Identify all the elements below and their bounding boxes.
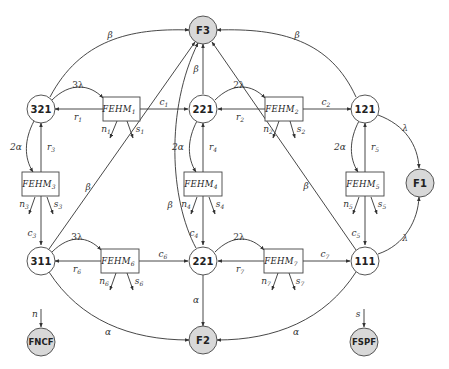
edge-121-to-F1: [378, 115, 419, 168]
box-FEHM6: FEHM6: [100, 249, 139, 273]
label-r5: r5: [371, 142, 379, 153]
label-beta-121-F3: β: [293, 30, 299, 40]
label-n5: n5: [343, 199, 353, 210]
node-221-top: 221: [189, 95, 217, 123]
node-label: 121: [355, 104, 376, 115]
box-FEHM1: FEHM1: [101, 97, 140, 121]
label-s4: s4: [216, 199, 225, 210]
label-n6: n6: [99, 276, 109, 287]
edge-FEHM2-n2: [273, 121, 279, 138]
label-beta-221a-F3: β: [192, 64, 198, 74]
label-c7: c7: [321, 249, 330, 260]
label-2lambda-221b: 2λ: [233, 232, 245, 242]
label-n1: n1: [101, 124, 111, 135]
node-FSPF: FSPF: [350, 328, 378, 356]
label-c3: c3: [28, 228, 37, 239]
label-n2: n2: [263, 124, 273, 135]
node-FNCF: FNCF: [27, 328, 55, 356]
label-beta-321-F3: β: [106, 30, 112, 40]
node-label: 321: [31, 104, 52, 115]
edge-FEHM2-s2: [290, 121, 295, 138]
box-label: FEHM7: [263, 256, 298, 267]
label-2lambda-221a: 2λ: [233, 80, 245, 90]
box-FEHM7: FEHM7: [263, 249, 303, 273]
edge-121-to-FEHM5-2alpha: [351, 121, 359, 172]
edge-311-to-F2: [49, 272, 189, 340]
node-label: 221: [193, 256, 214, 267]
label-c4: c4: [190, 228, 199, 239]
label-3lambda-321: 3λ: [72, 80, 84, 90]
label-2alpha-121: 2α: [333, 142, 346, 152]
node-label: FSPF: [352, 337, 376, 347]
node-label: 311: [31, 256, 52, 267]
label-n3: n3: [19, 199, 29, 210]
box-label: FEHM1: [101, 104, 136, 115]
edge-FEHM5-n5: [353, 197, 359, 214]
label-2alpha-221a: 2α: [171, 142, 184, 152]
node-121: 121: [351, 95, 379, 123]
node-311: 311: [27, 247, 55, 275]
label-alpha-311-F2: α: [105, 327, 111, 337]
edge-FEHM7-s7: [289, 273, 295, 290]
label-s6: s6: [135, 276, 144, 287]
label-n7: n7: [261, 276, 271, 287]
label-lambda-121-F1: λ: [401, 123, 408, 133]
box-label: FEHM5: [345, 179, 380, 190]
label-c2: c2: [322, 97, 331, 108]
label-n-FNCF: n: [32, 309, 38, 319]
label-2alpha-321: 2α: [9, 142, 22, 152]
box-label: FEHM3: [21, 179, 56, 190]
edge-221a-to-FEHM4-2alpha: [189, 121, 197, 172]
label-alpha-221b-F2: α: [193, 295, 199, 305]
label-s1: s1: [136, 124, 144, 135]
node-F1: F1: [406, 169, 434, 197]
node-F2: F2: [189, 326, 217, 354]
label-n4: n4: [181, 199, 191, 210]
label-beta-311-F3: β: [84, 182, 90, 192]
edge-FEHM7-n7: [272, 273, 278, 290]
label-r2: r2: [236, 112, 244, 123]
label-c5: c5: [352, 228, 361, 239]
edge-FEHM4-n4: [191, 197, 197, 214]
edge-FEHM6-n6: [110, 273, 116, 290]
node-label: 221: [193, 104, 214, 115]
node-321: 321: [27, 95, 55, 123]
box-label: FEHM4: [183, 179, 218, 190]
label-s3: s3: [54, 199, 63, 210]
label-3lambda-311: 3λ: [71, 232, 83, 242]
label-alpha-111-F2: α: [293, 327, 299, 337]
label-r1: r1: [74, 112, 82, 123]
box-label: FEHM6: [100, 256, 135, 267]
node-F3: F3: [189, 16, 217, 44]
label-s2: s2: [297, 124, 306, 135]
node-111: 111: [351, 247, 379, 275]
node-label: F2: [196, 335, 210, 346]
node-label: F1: [413, 178, 427, 189]
state-transition-diagram: F3 F1 F2 FNCF FSPF 321 221 121 311 221 1…: [0, 0, 449, 369]
label-r4: r4: [209, 142, 217, 153]
node-221-bottom: 221: [189, 247, 217, 275]
edge-111-to-F2: [217, 272, 356, 340]
label-s7: s7: [296, 276, 305, 287]
label-s-FSPF: s: [356, 309, 361, 319]
label-lambda-111-F1: λ: [401, 233, 408, 243]
edge-321-to-F3: [50, 30, 189, 97]
box-FEHM4: FEHM4: [183, 172, 222, 196]
box-FEHM5: FEHM5: [345, 172, 384, 196]
box-label: FEHM2: [264, 104, 299, 115]
edge-321-to-FEHM3-2alpha: [26, 121, 34, 172]
edge-FEHM5-s5: [371, 197, 377, 214]
edge-FEHM1-s1: [127, 121, 133, 138]
label-beta-111-F3: β: [302, 181, 308, 191]
box-FEHM2: FEHM2: [264, 97, 303, 121]
edge-FEHM3-n3: [29, 197, 35, 214]
label-r6: r6: [73, 264, 81, 275]
box-FEHM3: FEHM3: [21, 172, 59, 196]
label-beta-221b-F3: β: [166, 200, 172, 210]
edge-FEHM3-s3: [47, 197, 53, 214]
edge-FEHM1-n1: [110, 121, 117, 138]
label-r7: r7: [236, 264, 244, 275]
node-label: FNCF: [29, 337, 54, 347]
node-label: F3: [196, 25, 210, 36]
label-c6: c6: [159, 249, 168, 260]
